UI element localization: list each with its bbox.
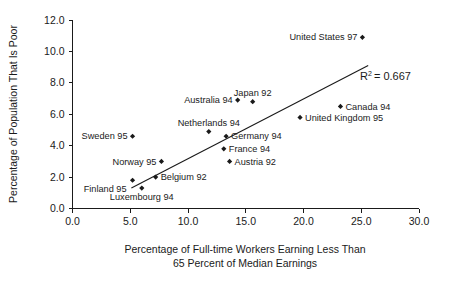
- y-tick-label: 10.0: [44, 45, 65, 57]
- x-tick-label: 20.0: [293, 215, 314, 227]
- r-squared-annotation: R2= 0.667: [360, 70, 411, 82]
- y-axis-ticks: 0.02.04.06.08.010.012.0: [44, 14, 72, 215]
- y-tick-label: 2.0: [50, 171, 65, 183]
- data-point: France 94: [221, 144, 270, 154]
- data-point: Germany 94: [224, 131, 282, 141]
- trend-line: [131, 66, 368, 189]
- data-point-label: United States 97: [289, 32, 357, 42]
- data-point-label: Norway 95: [113, 157, 157, 167]
- data-point: Canada 94: [338, 102, 391, 112]
- y-tick-label: 8.0: [50, 76, 65, 88]
- data-point-label: Netherlands 94: [178, 118, 240, 128]
- x-axis-title-line-1: Percentage of Full-time Workers Earning …: [124, 243, 365, 255]
- data-point-label: Sweden 95: [82, 131, 128, 141]
- data-point: United States 97: [289, 32, 365, 42]
- data-point-marker: [297, 115, 302, 120]
- trend-line-group: [131, 66, 368, 189]
- data-point-marker: [338, 104, 343, 109]
- chart-canvas: 0.02.04.06.08.010.012.0 0.05.010.015.020…: [0, 0, 450, 281]
- data-point-label: Japan 92: [234, 88, 272, 98]
- data-point-label: Australia 94: [184, 95, 233, 105]
- data-point-marker: [139, 185, 144, 190]
- x-axis-title-line-2: 65 Percent of Median Earnings: [173, 257, 317, 269]
- data-point-label: Belgium 92: [161, 172, 207, 182]
- data-point: Austria 92: [227, 157, 276, 167]
- y-tick-label: 0.0: [50, 202, 65, 214]
- r-squared-text: R2= 0.667: [360, 70, 411, 82]
- x-tick-label: 30.0: [409, 215, 430, 227]
- data-point: United Kingdom 95: [297, 113, 383, 123]
- data-point: Sweden 95: [82, 131, 136, 141]
- data-point-marker: [235, 98, 240, 103]
- data-point-marker: [206, 129, 211, 134]
- data-point-label: United Kingdom 95: [305, 113, 383, 123]
- data-points-group: United States 97Australia 94Japan 92Cana…: [82, 32, 391, 202]
- data-point: Australia 94: [184, 95, 240, 105]
- r-squared-symbol: R: [360, 70, 368, 82]
- y-tick-label: 12.0: [44, 14, 65, 26]
- r-squared-value: = 0.667: [374, 70, 411, 82]
- data-point-marker: [159, 159, 164, 164]
- x-axis-ticks: 0.05.010.015.020.025.030.0: [65, 209, 429, 227]
- x-tick-label: 5.0: [123, 215, 138, 227]
- data-point-label: Germany 94: [231, 131, 282, 141]
- x-tick-label: 0.0: [65, 215, 80, 227]
- data-point-label: Luxembourg 94: [110, 192, 174, 202]
- data-point-label: Canada 94: [345, 102, 390, 112]
- x-tick-label: 15.0: [236, 215, 257, 227]
- data-point: Belgium 92: [153, 172, 207, 182]
- y-axis-title: Percentage of Population That Is Poor: [7, 25, 19, 203]
- data-point-marker: [153, 174, 158, 179]
- data-point-marker: [250, 99, 255, 104]
- x-tick-label: 10.0: [178, 215, 199, 227]
- y-tick-label: 6.0: [50, 108, 65, 120]
- x-tick-label: 25.0: [351, 215, 372, 227]
- data-point-label: Austria 92: [235, 157, 276, 167]
- y-tick-label: 4.0: [50, 139, 65, 151]
- data-point: Norway 95: [113, 157, 165, 167]
- data-point-label: France 94: [229, 144, 270, 154]
- data-point-marker: [221, 146, 226, 151]
- scatter-chart-figure: 0.02.04.06.08.010.012.0 0.05.010.015.020…: [0, 0, 450, 281]
- data-point-marker: [360, 35, 365, 40]
- data-point: Japan 92: [234, 88, 272, 105]
- data-point-marker: [130, 178, 135, 183]
- data-point-marker: [130, 134, 135, 139]
- r-squared-superscript: 2: [368, 70, 372, 77]
- data-point-marker: [227, 159, 232, 164]
